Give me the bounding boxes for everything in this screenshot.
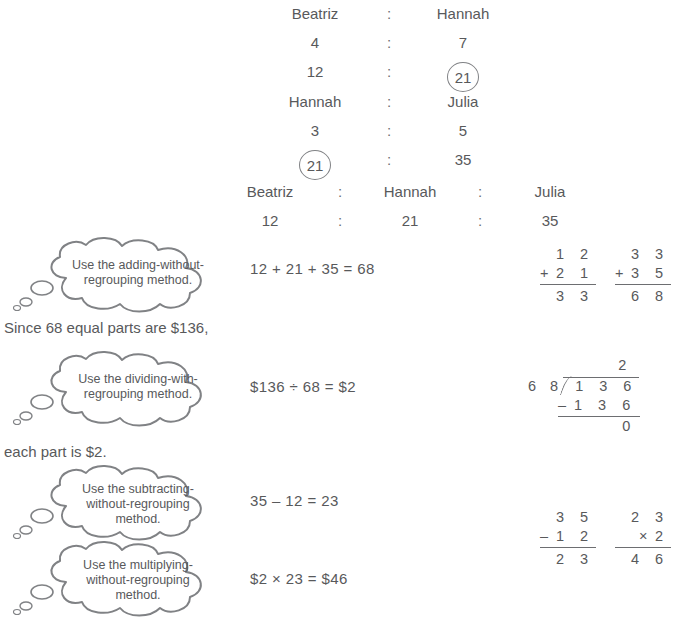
thought-line: regrouping method. bbox=[62, 273, 214, 288]
vcalc-result: 3 3 bbox=[556, 287, 596, 306]
vcalc-result: 4 6 bbox=[631, 550, 671, 569]
ratio-separator: : bbox=[375, 150, 403, 180]
vcalc-top-row: 3 5 bbox=[540, 508, 596, 527]
ratio-separator: : bbox=[465, 211, 495, 231]
ratio-value-beatriz-row1: 4 bbox=[255, 33, 375, 53]
vcalc-operator: + bbox=[540, 264, 556, 283]
thought-bubble-dividing-text: Use the dividing-with- regrouping method… bbox=[62, 372, 214, 402]
vcalc-result-row: 2 3 bbox=[540, 548, 596, 569]
vcalc-result: 2 3 bbox=[556, 550, 596, 569]
vcalc-top-row: 2 3 bbox=[615, 508, 671, 527]
thought-line: regrouping method. bbox=[62, 387, 214, 402]
vcalc-addend-1: 1 2 bbox=[556, 245, 596, 264]
vertical-calculation-add-33-35: 3 3 + 3 5 6 8 bbox=[615, 245, 671, 306]
vcalc-bottom-row: + 3 5 bbox=[615, 264, 671, 285]
thought-bubble-dividing: Use the dividing-with- regrouping method… bbox=[36, 352, 236, 430]
thought-bubble-trail-icon bbox=[14, 504, 58, 544]
vcalc-result-row: 4 6 bbox=[615, 548, 671, 569]
ratio-separator: : bbox=[375, 121, 403, 141]
ratio-header-julia: Julia bbox=[403, 92, 523, 112]
vcalc-bottom-row: – 1 2 bbox=[540, 527, 596, 548]
long-division-136-by-68: 2 6 8 1 3 6 – 1 3 6 0 bbox=[528, 356, 640, 436]
ratio-value-julia-row1: 5 bbox=[403, 121, 523, 141]
circled-value-21: 21 bbox=[299, 150, 331, 180]
ratio-table-beatriz-hannah: Beatriz : Hannah 4 : 7 12 : 21 bbox=[255, 4, 523, 92]
thought-line: method. bbox=[62, 588, 214, 603]
thought-line: without-regrouping bbox=[62, 573, 214, 588]
vertical-calculation-subtract-35-12: 3 5 – 1 2 2 3 bbox=[540, 508, 596, 569]
ratio-separator: : bbox=[375, 4, 403, 24]
vcalc-subtrahend: 1 2 bbox=[556, 527, 596, 546]
ratio-separator: : bbox=[375, 92, 403, 112]
thought-bubble-adding: Use the adding-without- regrouping metho… bbox=[36, 238, 236, 316]
thought-line: Use the dividing-with- bbox=[62, 372, 214, 387]
ratio-header-hannah: Hannah bbox=[255, 92, 375, 112]
vcalc-addend-2: 2 1 bbox=[556, 264, 596, 283]
vcalc-result: 6 8 bbox=[631, 287, 671, 306]
ratio-value-hannah-row1: 3 bbox=[255, 121, 375, 141]
vcalc-bottom-row: × 2 bbox=[615, 527, 671, 548]
vcalc-operator: × bbox=[639, 527, 655, 546]
long-division-quotient: 2 bbox=[528, 356, 640, 375]
prose-each-part-line: each part is $2. bbox=[4, 443, 107, 460]
thought-line: Use the subtracting- bbox=[62, 482, 214, 497]
long-division-divisor: 6 8 bbox=[528, 375, 563, 396]
long-division-remainder: 0 bbox=[528, 417, 640, 436]
vertical-calculation-add-12-21: 1 2 + 2 1 3 3 bbox=[540, 245, 596, 306]
vcalc-addend-2: 3 5 bbox=[631, 264, 671, 283]
vcalc-operator: – bbox=[540, 527, 556, 546]
thought-bubble-multiplying-text: Use the multiplying- without-regrouping … bbox=[62, 558, 214, 603]
ratio-header-hannah: Hannah bbox=[355, 182, 465, 202]
prose-since-line: Since 68 equal parts are $136, bbox=[4, 319, 208, 336]
long-division-subtrahend: 1 3 6 bbox=[574, 396, 638, 415]
thought-bubble-trail-icon bbox=[14, 580, 58, 620]
thought-bubble-subtracting-text: Use the subtracting- without-regrouping … bbox=[62, 482, 214, 527]
ratio-value-julia-row2: 35 bbox=[403, 150, 523, 180]
ratio-header-beatriz: Beatriz bbox=[215, 182, 325, 202]
equation-division: $136 ÷ 68 = $2 bbox=[250, 378, 356, 395]
vcalc-top-row: 1 2 bbox=[540, 245, 596, 264]
ratio-table-combined: Beatriz : Hannah : Julia 12 : 21 : 35 bbox=[215, 182, 605, 231]
thought-bubble-multiplying: Use the multiplying- without-regrouping … bbox=[36, 542, 236, 620]
ratio-separator: : bbox=[325, 182, 355, 202]
ratio-value-beatriz-row2: 12 bbox=[255, 62, 375, 92]
vcalc-minuend: 3 5 bbox=[556, 508, 596, 527]
ratio-separator: : bbox=[375, 62, 403, 92]
vcalc-multiplicand: 2 3 bbox=[631, 508, 671, 527]
long-division-dividend: 1 3 6 bbox=[563, 377, 639, 394]
thought-line: Use the multiplying- bbox=[62, 558, 214, 573]
long-division-subtract-operator: – bbox=[558, 396, 574, 415]
long-division-main-row: 6 8 1 3 6 bbox=[528, 375, 640, 396]
equation-subtraction: 35 – 12 = 23 bbox=[250, 492, 339, 509]
ratio-value-beatriz: 12 bbox=[215, 211, 325, 231]
thought-line: Use the adding-without- bbox=[62, 258, 214, 273]
ratio-value-hannah-row1: 7 bbox=[403, 33, 523, 53]
vcalc-addend-1: 3 3 bbox=[631, 245, 671, 264]
thought-line: without-regrouping bbox=[62, 497, 214, 512]
ratio-separator: : bbox=[375, 33, 403, 53]
ratio-separator: : bbox=[325, 211, 355, 231]
vcalc-multiplier: 2 bbox=[655, 527, 671, 546]
ratio-value-hannah-row2-circled-wrapper: 21 bbox=[403, 62, 523, 92]
thought-bubble-trail-icon bbox=[14, 276, 58, 316]
thought-line: method. bbox=[62, 512, 214, 527]
vcalc-result-row: 6 8 bbox=[615, 285, 671, 306]
long-division-bracket-icon: 1 3 6 bbox=[563, 375, 639, 396]
equation-addition: 12 + 21 + 35 = 68 bbox=[250, 260, 375, 277]
vcalc-operator: + bbox=[615, 264, 631, 283]
vcalc-top-row: 3 3 bbox=[615, 245, 671, 264]
vcalc-result-row: 3 3 bbox=[540, 285, 596, 306]
ratio-value-hannah-row2-circled-wrapper: 21 bbox=[255, 150, 375, 180]
ratio-header-hannah: Hannah bbox=[403, 4, 523, 24]
ratio-value-julia: 35 bbox=[495, 211, 605, 231]
ratio-separator: : bbox=[465, 182, 495, 202]
circled-value-21: 21 bbox=[447, 62, 479, 92]
ratio-table-hannah-julia: Hannah : Julia 3 : 5 21 : 35 bbox=[255, 92, 523, 180]
thought-bubble-adding-text: Use the adding-without- regrouping metho… bbox=[62, 258, 214, 288]
equation-multiplication: $2 × 23 = $46 bbox=[250, 570, 348, 587]
thought-bubble-subtracting: Use the subtracting- without-regrouping … bbox=[36, 466, 236, 544]
thought-bubble-trail-icon bbox=[14, 390, 58, 430]
vertical-calculation-multiply-23-2: 2 3 × 2 4 6 bbox=[615, 508, 671, 569]
ratio-value-hannah: 21 bbox=[355, 211, 465, 231]
ratio-header-beatriz: Beatriz bbox=[255, 4, 375, 24]
